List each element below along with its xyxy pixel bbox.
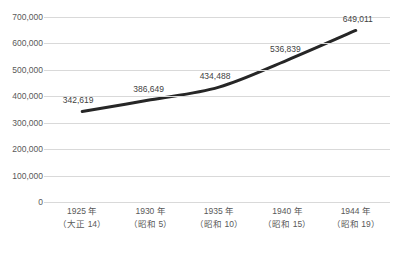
y-axis-tick xyxy=(44,176,48,177)
gridline xyxy=(48,176,390,177)
x-axis-tick-label: 1940 年（昭和 15） xyxy=(253,205,321,231)
x-axis-tick-label: 1935 年（昭和 10） xyxy=(185,205,253,231)
y-axis-tick-label: 100,000 xyxy=(12,172,43,181)
line-chart: 700,000600,000500,000400,000300,000200,0… xyxy=(0,0,401,253)
y-axis-tick xyxy=(44,43,48,44)
data-point-label: 434,488 xyxy=(200,72,231,81)
x-axis-year: 1940 年 xyxy=(272,206,302,216)
y-axis-tick-label: 200,000 xyxy=(12,145,43,154)
x-axis-year: 1935 年 xyxy=(204,206,234,216)
x-axis-tick-label: 1930 年（昭和 5） xyxy=(116,205,184,231)
y-axis-tick-label: 500,000 xyxy=(12,66,43,75)
x-axis-era: （昭和 10） xyxy=(185,218,253,231)
y-axis-tick-label: 400,000 xyxy=(12,92,43,101)
x-axis-tick-label: 1925 年（大正 14） xyxy=(48,205,116,231)
gridline xyxy=(48,17,390,18)
data-point-label: 536,839 xyxy=(270,45,301,54)
data-point-label: 386,649 xyxy=(133,84,164,93)
gridline xyxy=(48,96,390,97)
series-line xyxy=(48,17,390,202)
y-axis-tick-label: 600,000 xyxy=(12,39,43,48)
x-axis-year: 1944 年 xyxy=(341,206,371,216)
data-point-label: 342,619 xyxy=(63,96,94,105)
y-axis-tick xyxy=(44,123,48,124)
y-axis-tick-label: 700,000 xyxy=(12,13,43,22)
x-axis-labels: 1925 年（大正 14）1930 年（昭和 5）1935 年（昭和 10）19… xyxy=(48,205,390,249)
gridline xyxy=(48,202,390,203)
data-point-label: 649,011 xyxy=(343,15,373,24)
x-axis-era: （昭和 19） xyxy=(322,218,390,231)
x-axis-era: （昭和 15） xyxy=(253,218,321,231)
y-axis-tick-label: 0 xyxy=(38,198,43,207)
x-axis-year: 1930 年 xyxy=(135,206,165,216)
x-axis-tick-label: 1944 年（昭和 19） xyxy=(322,205,390,231)
y-axis-tick xyxy=(44,149,48,150)
y-axis-tick xyxy=(44,202,48,203)
y-axis-tick-label: 300,000 xyxy=(12,119,43,128)
y-axis-labels: 700,000600,000500,000400,000300,000200,0… xyxy=(0,17,43,202)
x-axis-era: （昭和 5） xyxy=(116,218,184,231)
y-axis-tick xyxy=(44,96,48,97)
plot-area xyxy=(48,17,390,202)
gridline xyxy=(48,43,390,44)
gridline xyxy=(48,149,390,150)
x-axis-year: 1925 年 xyxy=(67,206,97,216)
gridline xyxy=(48,123,390,124)
x-axis-era: （大正 14） xyxy=(48,218,116,231)
y-axis-tick xyxy=(44,70,48,71)
y-axis-tick xyxy=(44,17,48,18)
